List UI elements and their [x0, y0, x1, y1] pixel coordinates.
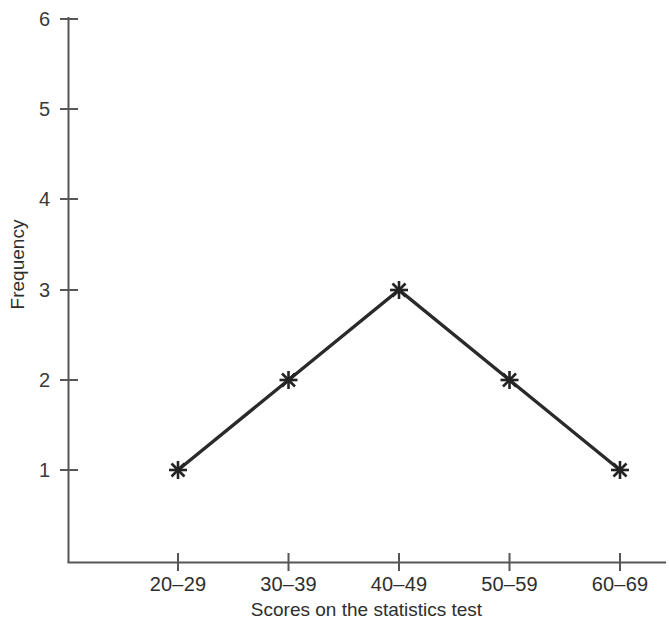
x-tick-label-20-29: 20–29 [123, 573, 233, 595]
y-tick-label-3: 3 [24, 280, 50, 300]
y-axis-title: Frequency [8, 205, 27, 325]
x-tick-label-30-39: 30–39 [234, 573, 344, 595]
frequency-line [178, 290, 620, 470]
plot-area [0, 0, 669, 626]
data-point-markers [169, 281, 629, 479]
frequency-polygon-chart: 6 5 4 3 2 1 20–29 30–39 40–49 50–59 60–6… [0, 0, 669, 626]
y-tick-label-4: 4 [24, 189, 50, 209]
data-point-1 [169, 461, 187, 479]
y-tick-label-5: 5 [24, 99, 50, 119]
data-point-3 [390, 281, 408, 299]
y-tick-label-6: 6 [24, 9, 50, 29]
x-tick-label-40-49: 40–49 [344, 573, 454, 595]
data-point-4 [501, 371, 519, 389]
y-tick-label-1: 1 [24, 460, 50, 480]
x-axis-title: Scores on the statistics test [68, 600, 665, 620]
data-point-5 [611, 461, 629, 479]
data-point-2 [280, 371, 298, 389]
x-tick-label-60-69: 60–69 [565, 573, 669, 595]
x-tick-label-50-59: 50–59 [455, 573, 565, 595]
y-tick-label-2: 2 [24, 370, 50, 390]
